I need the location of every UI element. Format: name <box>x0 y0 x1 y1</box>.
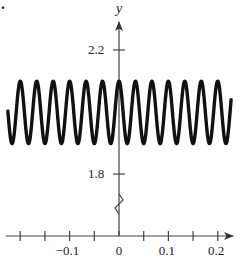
y-tick-label: 1.8 <box>88 167 104 180</box>
y-tick-label: 2.2 <box>88 43 104 56</box>
y-axis-label: y <box>116 2 122 16</box>
x-tick-label: 0 <box>116 244 123 257</box>
x-tick-label: 0.2 <box>208 244 224 257</box>
chart-plot <box>0 0 242 266</box>
x-tick-label: −0.1 <box>56 244 80 257</box>
x-tick-label: 0.1 <box>159 244 175 257</box>
